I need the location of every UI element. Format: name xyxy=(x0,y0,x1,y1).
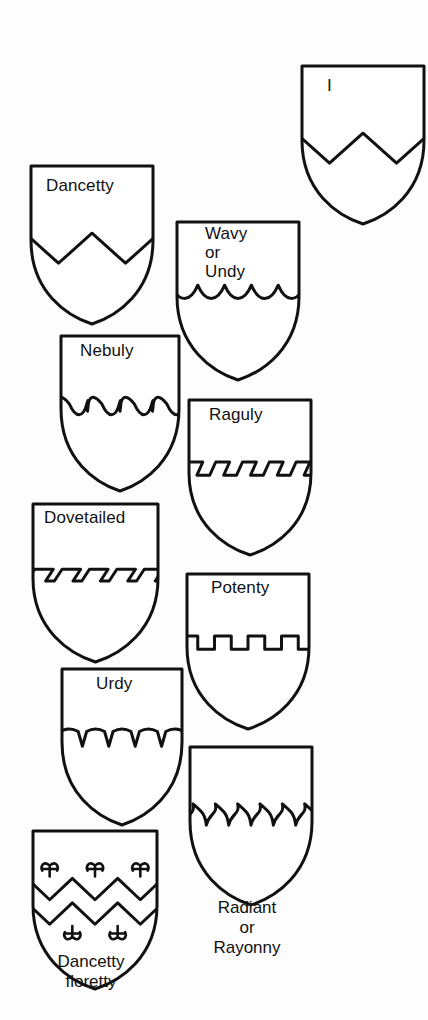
shield-caption-radiant-or-rayonny: Radiant or Rayonny xyxy=(186,898,308,958)
shield-label-dovetailed: Dovetailed xyxy=(44,508,125,527)
shield-label-urdy: Urdy xyxy=(96,674,132,693)
shield-outline xyxy=(33,504,158,662)
shield-outline xyxy=(302,66,424,224)
shield-label-raguly: Raguly xyxy=(209,405,263,424)
shield-radiant-or-rayonny xyxy=(186,743,316,909)
shield-label-potenty: Potenty xyxy=(211,578,269,597)
shield-label-dancetty: Dancetty xyxy=(46,176,114,195)
shield-label-nebuly: Nebuly xyxy=(80,341,134,360)
shield-outline xyxy=(187,574,309,729)
shield-label-wavy-or-undy: Wavy or Undy xyxy=(205,224,247,281)
shield-partial-top-right xyxy=(298,62,428,228)
shield-label-partial-top-right: I xyxy=(327,76,332,95)
shield-caption-dancetty-floretty: Dancetty floretty xyxy=(29,952,153,992)
